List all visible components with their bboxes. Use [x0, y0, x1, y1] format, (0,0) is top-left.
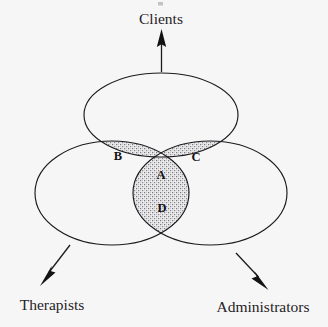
region-label-b: B	[114, 149, 122, 163]
venn-diagram: A B C D Clients Therapists Administrator…	[0, 0, 328, 327]
label-clients: Clients	[139, 10, 183, 27]
region-label-a: A	[156, 168, 165, 182]
label-administrators: Administrators	[217, 298, 310, 315]
scan-artifact-speck	[158, 2, 163, 6]
label-therapists: Therapists	[20, 296, 85, 313]
region-label-d: D	[157, 201, 166, 215]
region-label-c: C	[191, 150, 200, 164]
